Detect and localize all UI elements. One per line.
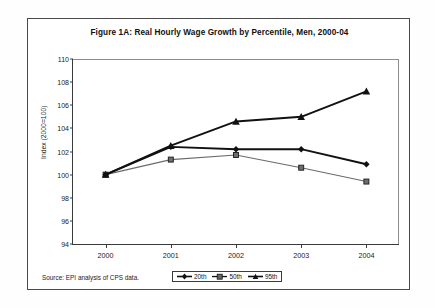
legend-item-50th[interactable]: 50th [212, 273, 241, 280]
y-tick-label: 108 [57, 79, 69, 86]
y-tick-label: 100 [57, 171, 69, 178]
x-tick-mark [301, 244, 302, 248]
y-tick-label: 96 [61, 217, 69, 224]
x-tick-label: 2004 [358, 251, 374, 260]
series-20th-line [102, 144, 369, 178]
y-tick-label: 104 [57, 125, 69, 132]
y-axis-title: Index (2000=100) [40, 106, 47, 159]
y-tick-label: 98 [61, 194, 69, 201]
x-tick-mark [366, 244, 367, 248]
triangle-marker-icon [248, 276, 263, 278]
y-tick-label: 94 [61, 241, 69, 248]
legend-label-50th: 50th [229, 273, 241, 280]
x-tick-label: 2000 [98, 251, 114, 260]
x-tick-label: 2001 [163, 251, 179, 260]
x-tick-mark [106, 244, 107, 248]
y-tick-label: 102 [57, 148, 69, 155]
x-tick-label: 2002 [228, 251, 244, 260]
series-canvas [73, 59, 399, 244]
y-tick-label: 106 [57, 102, 69, 109]
series-95th-line [102, 88, 370, 178]
legend-label-20th: 20th [194, 273, 206, 280]
plot-area: 110 108 106 104 102 100 98 96 94 2000 20… [72, 59, 399, 245]
legend-item-20th[interactable]: 20th [177, 273, 206, 280]
chart-legend[interactable]: 20th 50th 95th [172, 271, 282, 282]
legend-label-95th: 95th [265, 273, 277, 280]
legend-item-95th[interactable]: 95th [248, 273, 277, 280]
y-tick-label: 110 [58, 56, 69, 63]
diamond-marker-icon [177, 276, 192, 278]
chart-title: Figure 1A: Real Hourly Wage Growth by Pe… [28, 28, 411, 37]
square-marker-icon [212, 276, 227, 278]
figure-frame: Figure 1A: Real Hourly Wage Growth by Pe… [27, 18, 410, 290]
source-note: Source: EPI analysis of CPS data. [42, 274, 139, 281]
x-tick-mark [171, 244, 172, 248]
x-tick-mark [236, 244, 237, 248]
x-tick-label: 2003 [293, 251, 309, 260]
